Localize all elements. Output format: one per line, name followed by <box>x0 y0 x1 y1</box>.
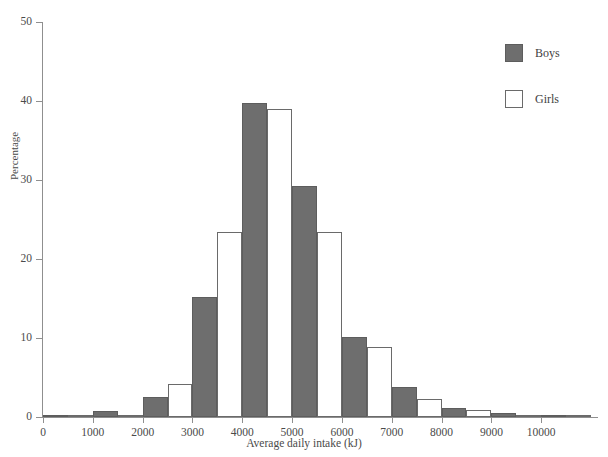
legend-item-boys: Boys <box>505 44 605 90</box>
y-axis-label: Percentage <box>8 132 20 180</box>
bar-boys-2500 <box>143 397 168 417</box>
x-tick-4000: 4000 <box>242 417 243 423</box>
legend-label-boys: Boys <box>535 45 560 61</box>
x-tick-1000: 1000 <box>93 417 94 423</box>
y-tick-label-40: 40 <box>21 93 33 108</box>
x-tick-2000: 2000 <box>143 417 144 423</box>
bar-boys-500 <box>43 415 68 417</box>
x-tick-10000: 10000 <box>541 417 542 423</box>
legend-swatch-girls-icon <box>505 90 523 108</box>
legend-label-girls: Girls <box>535 91 559 107</box>
bar-girls-2500 <box>168 384 193 417</box>
bar-girls-3500 <box>217 232 242 417</box>
x-tick-9000: 9000 <box>491 417 492 423</box>
y-tick-label-50: 50 <box>21 14 33 29</box>
bar-girls-5500 <box>317 232 342 417</box>
bar-boys-3500 <box>192 297 217 417</box>
chart-figure: 01020304050 0100020003000400050006000700… <box>0 0 608 457</box>
y-tick-label-20: 20 <box>21 251 33 266</box>
bar-boys-1500 <box>93 411 118 417</box>
bar-girls-10500 <box>566 415 591 417</box>
y-tick-label-10: 10 <box>21 330 33 345</box>
x-axis-label: Average daily intake (kJ) <box>0 437 608 449</box>
bar-boys-8500 <box>442 408 467 417</box>
y-tick-label-0: 0 <box>26 409 32 424</box>
y-tick-10: 10 <box>36 338 43 339</box>
bar-girls-7500 <box>417 399 442 417</box>
y-tick-30: 30 <box>36 180 43 181</box>
y-tick-50: 50 <box>36 22 43 23</box>
bar-girls-500 <box>68 415 93 417</box>
y-tick-40: 40 <box>36 101 43 102</box>
y-tick-0: 0 <box>36 417 43 418</box>
x-tick-3000: 3000 <box>192 417 193 423</box>
x-tick-6000: 6000 <box>342 417 343 423</box>
bar-girls-4500 <box>267 109 292 417</box>
bar-boys-5500 <box>292 186 317 417</box>
bar-girls-6500 <box>367 347 392 417</box>
x-tick-0: 0 <box>43 417 44 423</box>
y-tick-label-30: 30 <box>21 172 33 187</box>
bar-girls-8500 <box>466 410 491 417</box>
bar-boys-10500 <box>541 415 566 417</box>
legend-item-girls: Girls <box>505 90 605 136</box>
bar-boys-9500 <box>491 413 516 417</box>
x-axis-line <box>42 417 598 418</box>
bar-boys-7500 <box>392 387 417 417</box>
x-tick-5000: 5000 <box>292 417 293 423</box>
x-tick-8000: 8000 <box>442 417 443 423</box>
x-tick-7000: 7000 <box>392 417 393 423</box>
bar-boys-4500 <box>242 103 267 417</box>
bar-girls-1500 <box>118 415 143 417</box>
chart-legend: Boys Girls <box>505 44 605 136</box>
legend-swatch-boys-icon <box>505 44 523 62</box>
bar-boys-6500 <box>342 337 367 417</box>
y-tick-20: 20 <box>36 259 43 260</box>
bar-girls-9500 <box>516 415 541 417</box>
